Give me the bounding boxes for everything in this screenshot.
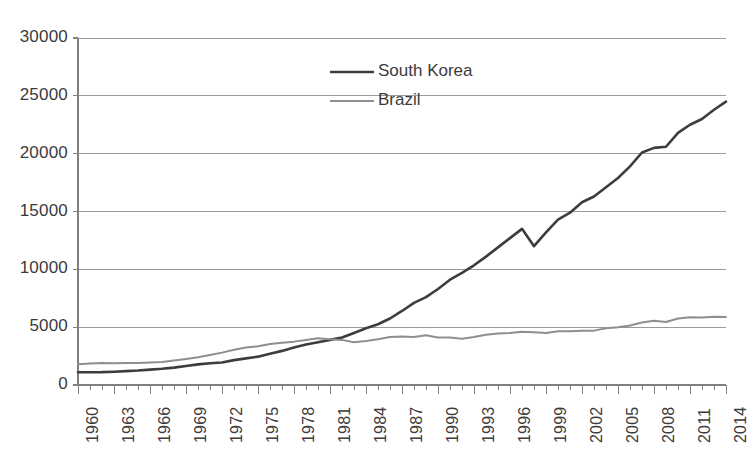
x-axis-tick-label: 2008 <box>660 407 678 443</box>
x-axis-tick-label: 1972 <box>228 407 246 443</box>
x-axis-tick-label: 1966 <box>156 407 174 443</box>
legend-label-south-korea: South Korea <box>378 61 473 81</box>
x-axis-tick-label: 1960 <box>84 407 102 443</box>
x-axis-tick-label: 1999 <box>552 407 570 443</box>
y-axis-tick-label: 15000 <box>4 201 68 221</box>
y-axis-tick-label: 25000 <box>4 85 68 105</box>
y-axis-tick-label: 0 <box>4 374 68 394</box>
x-axis-tick-label: 1996 <box>516 407 534 443</box>
series-line-south-korea <box>78 102 726 373</box>
series-line-brazil <box>78 317 726 364</box>
y-axis-tick-label: 10000 <box>4 258 68 278</box>
x-axis-tick-label: 1978 <box>300 407 318 443</box>
x-axis-tick-label: 2005 <box>624 407 642 443</box>
x-axis-tick-label: 1990 <box>444 407 462 443</box>
x-axis-tick-label: 1984 <box>372 407 390 443</box>
y-axis-tick-label: 20000 <box>4 143 68 163</box>
x-axis-tick-label: 2011 <box>696 408 714 443</box>
x-axis-tick-label: 1969 <box>192 407 210 443</box>
x-axis-tick-label: 1963 <box>120 407 138 443</box>
x-axis-tick-label: 1987 <box>408 407 426 443</box>
x-axis-tick-label: 1975 <box>264 407 282 443</box>
x-axis-tick-label: 1981 <box>336 407 354 443</box>
y-axis-tick-label: 30000 <box>4 27 68 47</box>
x-axis-tick-label: 1993 <box>480 407 498 443</box>
x-axis-tick-label: 2002 <box>588 407 606 443</box>
x-axis-tick-label: 2014 <box>732 407 750 443</box>
y-axis-tick-label: 5000 <box>4 316 68 336</box>
legend-label-brazil: Brazil <box>378 90 421 110</box>
